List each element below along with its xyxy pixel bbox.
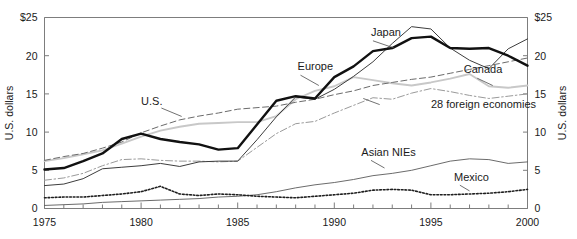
x-tick-label: 1995 [419, 216, 443, 228]
annotation-label: Japan [371, 26, 401, 38]
annotation-label: 28 foreign economies [431, 98, 537, 110]
y-tick-label-right: 20 [535, 50, 547, 62]
y-tick-label-left: 10 [26, 126, 38, 138]
y-tick-label-left: 0 [32, 202, 38, 214]
y-axis-title-left: U.S. dollars [3, 86, 15, 140]
annotation-leader [161, 108, 181, 116]
x-tick-label: 1980 [129, 216, 153, 228]
annotation-label: Europe [298, 60, 333, 72]
annotation-leader [460, 185, 470, 191]
series-annotations: U.S.EuropeJapanCanada28 foreign economie… [141, 26, 536, 191]
y-tick-label-left: $25 [20, 11, 38, 23]
x-tick-label: 1975 [33, 216, 57, 228]
y-axis-title-right: U.S. dollars [556, 86, 568, 140]
annotation-label: Mexico [454, 171, 489, 183]
line-chart: 0055101015152020$25$25197519801985199019… [0, 0, 577, 239]
y-tick-label-right: 0 [535, 202, 541, 214]
y-tick-label-left: 15 [26, 88, 38, 100]
annotation-leader [300, 75, 318, 85]
annotation-label: Canada [464, 63, 503, 75]
annotation-leader [371, 160, 385, 168]
annotation-label: Asian NIEs [361, 146, 416, 158]
y-tick-label-right: $25 [535, 11, 553, 23]
y-tick-label-right: 5 [535, 164, 541, 176]
axis-titles: U.S. dollarsU.S. dollars [3, 86, 568, 140]
x-tick-label: 1985 [226, 216, 250, 228]
y-tick-label-left: 5 [32, 164, 38, 176]
chart-container: 0055101015152020$25$25197519801985199019… [0, 0, 577, 239]
series-line-mexico [45, 186, 528, 197]
x-tick-label: 1990 [323, 216, 347, 228]
y-tick-label-right: 10 [535, 126, 547, 138]
y-tick-label-right: 15 [535, 88, 547, 100]
series-line-canada [45, 74, 528, 161]
annotation-leader [363, 98, 379, 104]
y-tick-label-left: 20 [26, 50, 38, 62]
annotation-label: U.S. [141, 95, 162, 107]
x-tick-label: 2000 [516, 216, 540, 228]
